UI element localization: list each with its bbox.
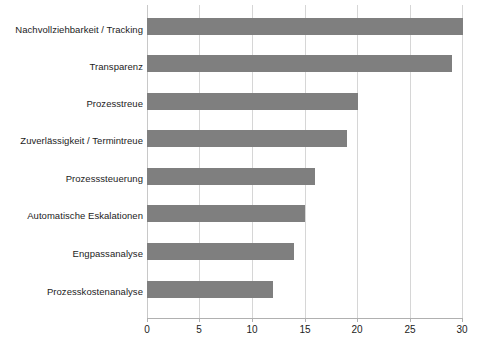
tick-label-15: 15 xyxy=(299,324,310,336)
gridline-5 xyxy=(199,5,200,318)
category-label-transparenz: Transparenz xyxy=(0,61,143,72)
bar-automatische-eskalationen xyxy=(147,205,305,222)
tick-mark-20 xyxy=(357,318,358,322)
category-label-nachvollziehbarkeit-tracking: Nachvollziehbarkeit / Tracking xyxy=(0,24,143,35)
bar-zuverlaessigkeit-termintreue xyxy=(147,130,347,147)
gridline-25 xyxy=(410,5,411,318)
bar-prozesskostenanalyse xyxy=(147,281,273,298)
category-label-prozesstreue: Prozesstreue xyxy=(0,98,143,109)
bar-chart: Nachvollziehbarkeit / Tracking Transpare… xyxy=(0,0,479,352)
bar-transparenz xyxy=(147,55,452,72)
gridline-10 xyxy=(252,5,253,318)
category-label-prozesskostenanalyse: Prozesskostenanalyse xyxy=(0,286,143,297)
tick-mark-30 xyxy=(462,318,463,322)
gridline-20 xyxy=(357,5,358,318)
value-axis-origin-line xyxy=(147,5,148,318)
tick-label-25: 25 xyxy=(404,324,415,336)
category-label-zuverlaessigkeit-termintreue: Zuverlässigkeit / Termintreue xyxy=(0,135,143,146)
tick-mark-15 xyxy=(305,318,306,322)
category-axis-labels: Nachvollziehbarkeit / Tracking Transpare… xyxy=(0,5,143,318)
tick-mark-25 xyxy=(410,318,411,322)
tick-label-30: 30 xyxy=(456,324,467,336)
category-label-prozesssteuerung: Prozesssteuerung xyxy=(0,173,143,184)
bar-engpassanalyse xyxy=(147,243,294,260)
bar-nachvollziehbarkeit-tracking xyxy=(147,18,463,35)
bar-prozesstreue xyxy=(147,93,358,110)
tick-mark-0 xyxy=(147,318,148,322)
tick-mark-10 xyxy=(252,318,253,322)
plot-area xyxy=(147,5,463,318)
tick-label-0: 0 xyxy=(144,324,150,336)
category-label-automatische-eskalationen: Automatische Eskalationen xyxy=(0,210,143,221)
tick-label-5: 5 xyxy=(196,324,202,336)
tick-mark-5 xyxy=(199,318,200,322)
gridline-15 xyxy=(305,5,306,318)
tick-label-10: 10 xyxy=(246,324,257,336)
bar-prozesssteuerung xyxy=(147,168,315,185)
gridline-30 xyxy=(462,5,463,318)
category-label-engpassanalyse: Engpassanalyse xyxy=(0,248,143,259)
tick-label-20: 20 xyxy=(351,324,362,336)
